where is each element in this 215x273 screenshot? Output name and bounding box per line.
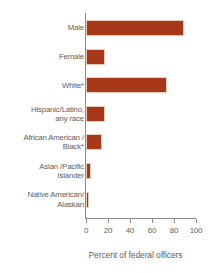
bar-row: Hispanic/Latino, any race bbox=[0, 106, 215, 135]
bar bbox=[86, 106, 105, 122]
category-label: White* bbox=[2, 81, 84, 90]
bar bbox=[86, 192, 89, 208]
x-tick-mark bbox=[130, 219, 131, 223]
x-tick-mark bbox=[108, 219, 109, 223]
bar-chart-figure: MaleFemaleWhite*Hispanic/Latino, any rac… bbox=[0, 0, 215, 273]
bar bbox=[86, 77, 167, 93]
bar-row: Male bbox=[0, 20, 215, 49]
bar bbox=[86, 134, 102, 150]
x-tick-label: 80 bbox=[162, 226, 186, 235]
category-label: Native American/ Alaskan bbox=[2, 190, 84, 208]
x-tick-label: 0 bbox=[74, 226, 98, 235]
plot-area: MaleFemaleWhite*Hispanic/Latino, any rac… bbox=[0, 0, 215, 273]
bar-row: Asian /Pacific Islander bbox=[0, 163, 215, 192]
x-tick-label: 60 bbox=[140, 226, 164, 235]
category-label: African American / Black* bbox=[2, 133, 84, 151]
x-tick-label: 100 bbox=[184, 226, 208, 235]
x-tick-mark bbox=[86, 219, 87, 223]
bar-row: White* bbox=[0, 77, 215, 106]
x-tick-label: 40 bbox=[118, 226, 142, 235]
x-tick-mark bbox=[174, 219, 175, 223]
bar-row: Native American/ Alaskan bbox=[0, 192, 215, 221]
x-tick-mark bbox=[196, 219, 197, 223]
category-label: Male bbox=[2, 23, 84, 32]
category-label: Hispanic/Latino, any race bbox=[2, 105, 84, 123]
x-tick-label: 20 bbox=[96, 226, 120, 235]
bar bbox=[86, 163, 91, 179]
x-axis-title: Percent of federal officers bbox=[0, 250, 215, 260]
category-label: Female bbox=[2, 52, 84, 61]
bar bbox=[86, 49, 105, 65]
bar-row: Female bbox=[0, 49, 215, 78]
bar bbox=[86, 20, 184, 36]
category-label: Asian /Pacific Islander bbox=[2, 162, 84, 180]
x-tick-mark bbox=[152, 219, 153, 223]
bar-row: African American / Black* bbox=[0, 134, 215, 163]
